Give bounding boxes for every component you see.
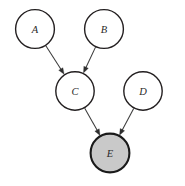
diagram-canvas: ABCDE	[0, 0, 185, 186]
node-label-d: D	[138, 86, 147, 97]
node-label-b: B	[101, 24, 108, 35]
node-label-e: E	[106, 148, 114, 159]
node-c[interactable]: C	[56, 72, 94, 110]
arrowhead-icon	[119, 129, 124, 136]
edge-b-to-c	[83, 47, 95, 73]
edge-c-to-e	[85, 108, 100, 135]
node-b[interactable]: B	[85, 10, 124, 49]
node-label-c: C	[71, 86, 79, 97]
edge-d-to-e	[119, 108, 133, 135]
node-e[interactable]: E	[91, 134, 130, 173]
edge-a-to-c	[46, 46, 64, 74]
graph-svg: ABCDE	[0, 0, 185, 186]
nodes-layer: ABCDE	[16, 10, 163, 173]
node-label-a: A	[31, 24, 39, 35]
arrowhead-icon	[83, 66, 88, 73]
node-a[interactable]: A	[16, 10, 55, 49]
arrowhead-icon	[95, 129, 100, 136]
arrowhead-icon	[59, 68, 64, 75]
node-d[interactable]: D	[124, 72, 162, 110]
